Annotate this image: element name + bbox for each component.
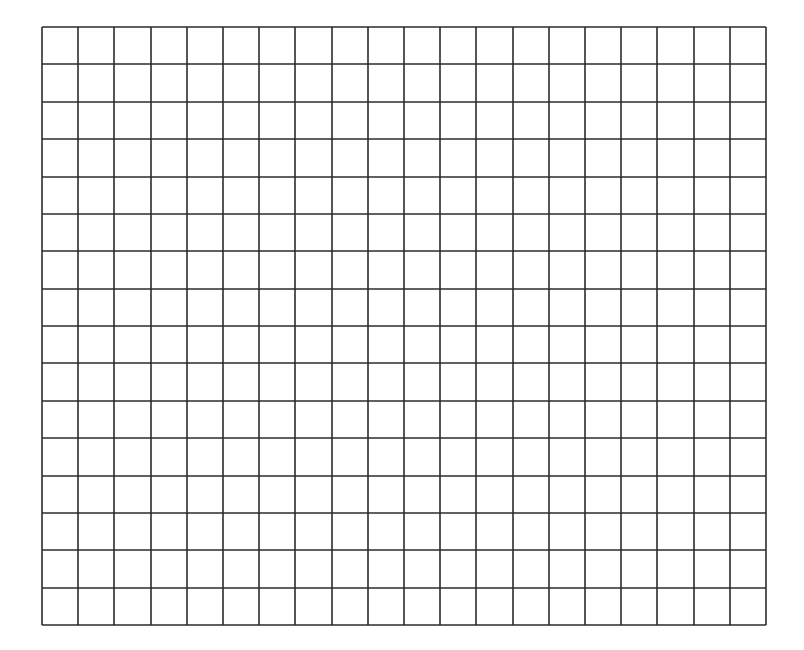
grid-lines (41, 26, 767, 626)
blank-grid (41, 26, 767, 626)
